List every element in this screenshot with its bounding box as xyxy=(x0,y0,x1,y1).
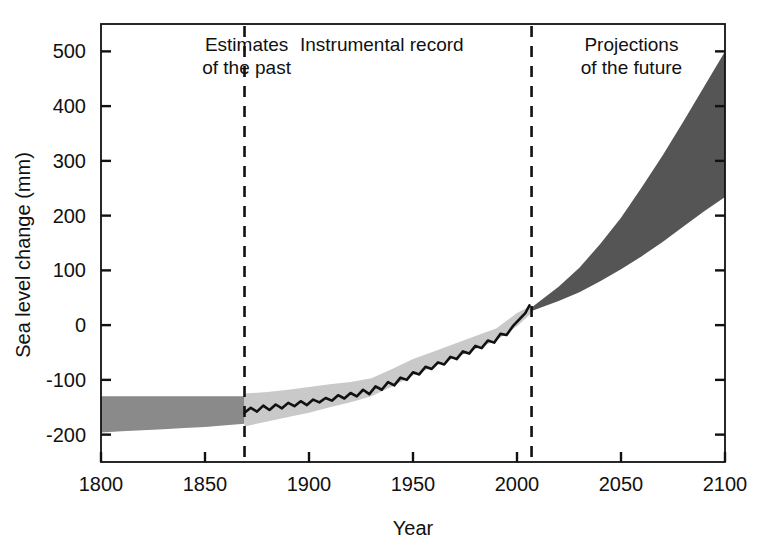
estimates-of-the-past-line1: Estimates xyxy=(205,34,288,55)
x-tick-label: 2050 xyxy=(599,473,644,495)
chart-series-layer xyxy=(101,51,725,432)
x-tick-label: 1800 xyxy=(79,473,124,495)
x-tick-label: 1900 xyxy=(287,473,332,495)
y-tick-label: 100 xyxy=(53,259,86,281)
series-band xyxy=(101,396,245,432)
x-tick-label: 2000 xyxy=(495,473,540,495)
x-tick-label: 2100 xyxy=(703,473,748,495)
panel-annotations-layer: Estimatesof the pastInstrumental recordP… xyxy=(202,34,682,78)
series-band xyxy=(245,305,532,426)
y-tick-label: 500 xyxy=(53,40,86,62)
y-tick-label: 400 xyxy=(53,95,86,117)
projections-of-the-future-line2: of the future xyxy=(581,57,682,78)
estimates-of-the-past-line2: of the past xyxy=(202,57,291,78)
y-axis-title: Sea level change (mm) xyxy=(12,152,34,358)
y-tick-label: -100 xyxy=(46,369,86,391)
series-band xyxy=(532,51,725,311)
x-tick-label: 1850 xyxy=(183,473,228,495)
x-tick-label: 1950 xyxy=(391,473,436,495)
y-tick-label: 0 xyxy=(75,314,86,336)
chart-canvas: -200-10001002003004005001800185019001950… xyxy=(0,0,762,552)
sea-level-change-chart: -200-10001002003004005001800185019001950… xyxy=(0,0,762,552)
y-tick-label: 300 xyxy=(53,150,86,172)
y-tick-label: 200 xyxy=(53,205,86,227)
projections-of-the-future-line1: Projections xyxy=(584,34,678,55)
y-tick-label: -200 xyxy=(46,424,86,446)
x-axis-title: Year xyxy=(393,517,434,539)
instrumental-record-line1: Instrumental record xyxy=(300,34,464,55)
